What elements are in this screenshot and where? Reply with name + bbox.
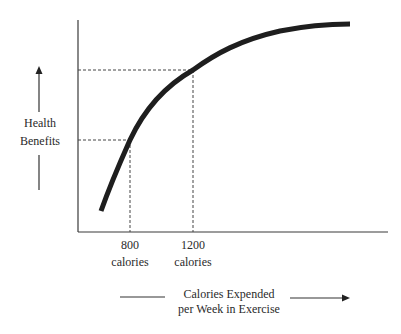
chart-canvas — [0, 0, 401, 334]
reference-line-1200 — [78, 70, 193, 232]
x-tick-800-unit: calories — [105, 255, 155, 270]
x-axis-label-line1: Calories Expended — [168, 287, 290, 302]
x-tick-1200-value: 1200 — [168, 238, 218, 253]
y-axis-label-line1: Health — [8, 116, 72, 131]
x-tick-800: 800 calories — [105, 238, 155, 270]
y-axis-label-line2: Benefits — [8, 134, 72, 149]
health-benefit-curve — [101, 24, 350, 211]
up-arrow-icon — [36, 66, 43, 74]
x-tick-1200: 1200 calories — [168, 238, 218, 270]
y-axis-label: Health Benefits — [8, 116, 72, 149]
x-tick-800-value: 800 — [105, 238, 155, 253]
x-tick-1200-unit: calories — [168, 255, 218, 270]
x-axis-label-line2: per Week in Exercise — [168, 302, 290, 317]
right-arrow-icon — [342, 295, 350, 302]
x-axis-label: Calories Expended per Week in Exercise — [168, 287, 290, 317]
